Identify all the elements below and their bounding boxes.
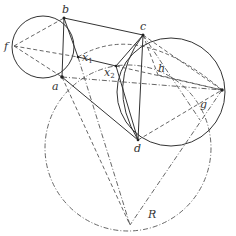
- dashdot-g-R: [130, 90, 222, 225]
- line-x2-d: [116, 66, 138, 140]
- point-g: [220, 88, 224, 92]
- label-g: g: [200, 98, 207, 111]
- dash-f-x1: [14, 46, 78, 57]
- line-a-d: [62, 77, 138, 140]
- label-h: h: [158, 62, 165, 75]
- dash-d-g: [138, 90, 222, 140]
- line-b-a: [62, 18, 64, 77]
- point-a: [60, 75, 64, 79]
- dash-c-h: [143, 35, 158, 75]
- line-b-c: [64, 18, 143, 35]
- dashed-arc: [78, 44, 222, 90]
- diagram-canvas: f b a x1 c x2 h d g R: [0, 0, 236, 236]
- label-f: f: [3, 40, 10, 53]
- label-b: b: [62, 3, 69, 16]
- label-x1: x1: [82, 51, 93, 65]
- line-c-d: [138, 35, 143, 140]
- label-c: c: [140, 20, 146, 33]
- dash-f-b: [14, 18, 64, 46]
- dash-c-g: [143, 35, 222, 90]
- line-b-x1: [64, 18, 78, 57]
- label-x2: x2: [104, 66, 115, 80]
- geometry-diagram: f b a x1 c x2 h d g R: [0, 0, 236, 236]
- point-x2: [115, 65, 118, 68]
- point-c: [142, 34, 145, 37]
- label-d: d: [134, 142, 141, 155]
- label-R: R: [147, 208, 156, 221]
- dash-a-R: [62, 77, 130, 225]
- dashdot-c-g2: [143, 35, 200, 120]
- label-a: a: [52, 80, 59, 93]
- large-dashdot-circle: [45, 65, 211, 231]
- point-b: [63, 17, 66, 20]
- line-c-x2: [116, 35, 143, 66]
- point-d: [137, 139, 140, 142]
- point-x1: [77, 56, 80, 59]
- dash-f-a: [14, 46, 62, 77]
